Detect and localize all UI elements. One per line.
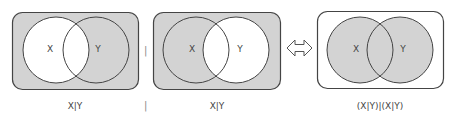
expression-caption-2: X|Y (197, 101, 237, 111)
label-x-2: X (186, 44, 198, 54)
operator-between-diagrams: | (144, 45, 147, 56)
label-x-1: X (44, 44, 56, 54)
operator-between-expressions: | (144, 100, 147, 111)
expression-caption-3: (X|Y)|(X|Y) (340, 101, 420, 111)
venn-diagram-1 (13, 13, 139, 90)
label-y-1: Y (92, 44, 104, 54)
expression-caption-1: X|Y (55, 101, 95, 111)
label-x-3: X (350, 44, 362, 54)
venn-diagram-2 (154, 13, 281, 90)
venn-diagram-3 (318, 12, 444, 89)
label-y-3: Y (397, 44, 409, 54)
equivalence-arrow-icon (287, 40, 312, 56)
label-y-2: Y (234, 44, 246, 54)
